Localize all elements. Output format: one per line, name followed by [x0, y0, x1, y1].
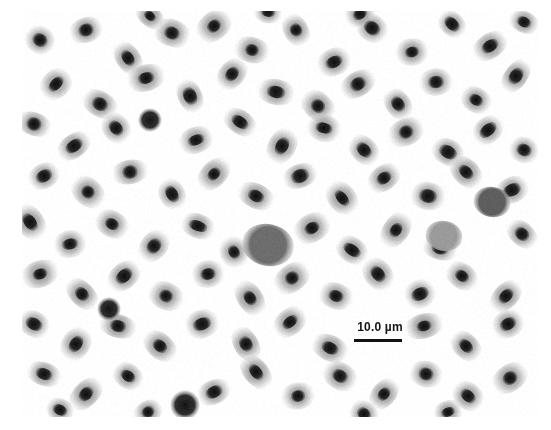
micrograph-figure: 10.0 µm: [0, 0, 551, 430]
blood-smear-micrograph-canvas: [0, 0, 551, 430]
